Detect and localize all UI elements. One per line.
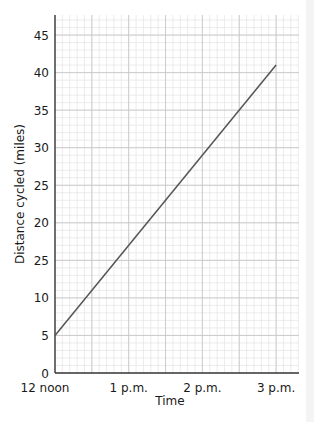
x-tick-label: 2 p.m. [183, 381, 221, 395]
x-tick-label: 3 p.m. [257, 381, 295, 395]
y-tick-label: 25 [34, 254, 49, 268]
y-axis-tick-labels: 051025202530354045 [34, 29, 49, 381]
x-tick-label: 12 noon [21, 381, 70, 395]
x-tick-label: 1 p.m. [110, 381, 148, 395]
y-tick-label: 10 [34, 291, 49, 305]
y-axis-title: Distance cycled (miles) [13, 124, 27, 264]
y-tick-label: 35 [34, 104, 49, 118]
major-gridlines [55, 15, 299, 373]
line-chart: 051025202530354045 12 noon1 p.m.2 p.m.3 … [0, 0, 314, 422]
y-tick-label: 5 [41, 329, 49, 343]
x-axis-title: Time [154, 394, 184, 408]
y-tick-label: 0 [41, 367, 49, 381]
page-edge [306, 0, 314, 422]
y-tick-label: 30 [34, 141, 49, 155]
y-tick-label: 20 [34, 216, 49, 230]
y-tick-label: 25 [34, 179, 49, 193]
y-tick-label: 45 [34, 29, 49, 43]
x-axis-tick-labels: 12 noon1 p.m.2 p.m.3 p.m. [21, 381, 296, 395]
y-tick-label: 40 [34, 66, 49, 80]
